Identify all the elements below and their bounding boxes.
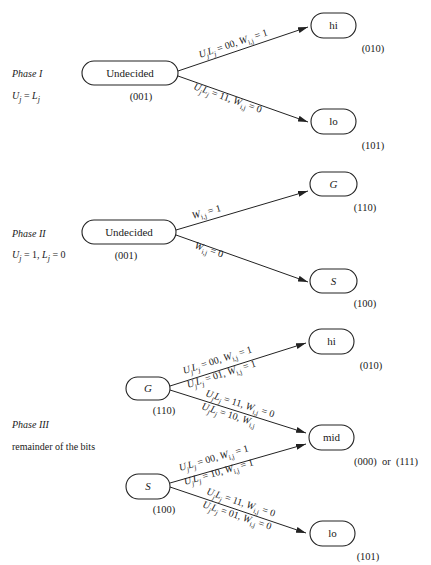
node-hi-phase-1: hi	[311, 13, 356, 38]
phase-2-title: Phase II	[11, 228, 46, 239]
node-G-phase-3: G	[126, 377, 170, 400]
phase-1-condition: Uj = Lj	[12, 90, 41, 104]
phase-2: Phase II Uj = 1, Lj = 0 Undecided (001) …	[11, 172, 377, 310]
state-diagram: Phase I Uj = Lj Undecided (001) UjLj = 0…	[0, 0, 431, 565]
code-010: (010)	[360, 360, 383, 372]
svg-text:S: S	[331, 275, 337, 287]
phase-3-condition: remainder of the bits	[12, 441, 95, 452]
code-101: (101)	[362, 140, 385, 152]
edge-label-11: UjLj = 11, Wi,j = 0	[191, 81, 263, 118]
node-lo-phase-3: lo	[310, 521, 355, 546]
code-010: (010)	[362, 43, 385, 55]
code-110: (110)	[354, 202, 377, 214]
edge-label-w0: Wi,j = 0	[192, 239, 225, 262]
node-label: Undecided	[106, 67, 154, 79]
code-001: (001)	[115, 250, 138, 262]
phase-1-title: Phase I	[11, 68, 43, 79]
svg-text:hi: hi	[329, 19, 338, 31]
svg-text:lo: lo	[329, 115, 338, 127]
node-undecided-phase-1: Undecided	[82, 61, 178, 85]
code-mid: (000) or (111)	[354, 456, 418, 468]
svg-text:Undecided: Undecided	[105, 226, 153, 238]
node-undecided-phase-2: Undecided	[82, 220, 176, 244]
phase-3: Phase III remainder of the bits G (110) …	[11, 329, 418, 563]
node-S-phase-2: S	[310, 269, 357, 293]
svg-text:G: G	[330, 178, 338, 190]
node-lo-phase-1: lo	[311, 109, 356, 134]
node-G-phase-2: G	[310, 172, 357, 196]
node-mid-phase-3: mid	[309, 425, 354, 450]
phase-2-condition: Uj = 1, Lj = 0	[12, 249, 66, 263]
code-101: (101)	[357, 551, 380, 563]
node-S-phase-3: S	[126, 474, 170, 499]
code-100: (100)	[153, 504, 176, 516]
svg-text:G: G	[144, 382, 152, 394]
code-001: (001)	[130, 91, 153, 103]
code-100: (100)	[354, 298, 377, 310]
svg-text:mid: mid	[323, 431, 341, 443]
svg-text:hi: hi	[327, 335, 336, 347]
node-hi-phase-3: hi	[309, 329, 354, 354]
phase-3-title: Phase III	[11, 419, 50, 430]
svg-text:S: S	[145, 480, 151, 492]
edge-label-00: UjLj = 00, Wi,j = 1	[197, 27, 270, 63]
code-110: (110)	[153, 405, 176, 417]
svg-text:lo: lo	[328, 527, 337, 539]
phase-1: Phase I Uj = Lj Undecided (001) UjLj = 0…	[11, 13, 385, 152]
